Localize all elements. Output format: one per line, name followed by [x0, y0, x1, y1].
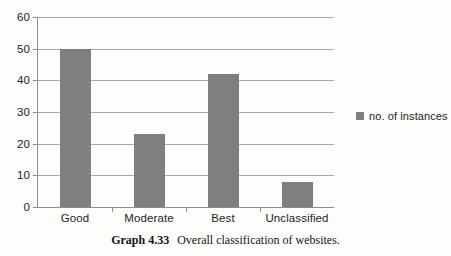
y-axis-tick-mark — [33, 144, 38, 145]
y-axis-tick-mark — [33, 17, 38, 18]
gridline — [38, 17, 334, 18]
x-axis-tick-mark — [112, 207, 113, 212]
plot-area: 0102030405060 — [38, 17, 334, 207]
x-axis-category-label: Best — [211, 212, 234, 224]
bar — [208, 74, 239, 207]
bar — [134, 134, 165, 207]
x-axis-category-label: Good — [61, 212, 90, 224]
caption-text: Overall classification of websites. — [177, 233, 340, 247]
legend-swatch-icon — [356, 112, 364, 120]
bar — [60, 49, 91, 207]
y-axis-tick-label: 0 — [24, 201, 31, 213]
x-axis-tick-mark — [186, 207, 187, 212]
legend-label: no. of instances — [369, 110, 448, 122]
x-axis-category-label: Unclassified — [265, 212, 328, 224]
bar — [282, 182, 313, 207]
y-axis-tick-label: 60 — [17, 11, 30, 23]
chart-legend: no. of instances — [356, 110, 448, 122]
x-axis-tick-mark — [260, 207, 261, 212]
figure-caption: Graph 4.33Overall classification of webs… — [0, 233, 451, 248]
y-axis-tick-mark — [33, 49, 38, 50]
y-axis-tick-label: 20 — [17, 138, 30, 150]
x-axis-category-label: Moderate — [124, 212, 173, 224]
y-axis-tick-mark — [33, 175, 38, 176]
y-axis-tick-mark — [33, 112, 38, 113]
y-axis-tick-label: 40 — [17, 74, 30, 86]
caption-label: Graph 4.33 — [111, 233, 169, 247]
chart-figure: 0102030405060 GoodModerateBestUnclassifi… — [0, 0, 451, 256]
y-axis-tick-mark — [33, 207, 38, 208]
y-axis-tick-label: 30 — [17, 106, 30, 118]
y-axis-tick-label: 10 — [17, 169, 30, 181]
y-axis-tick-mark — [33, 80, 38, 81]
y-axis-tick-label: 50 — [17, 43, 30, 55]
